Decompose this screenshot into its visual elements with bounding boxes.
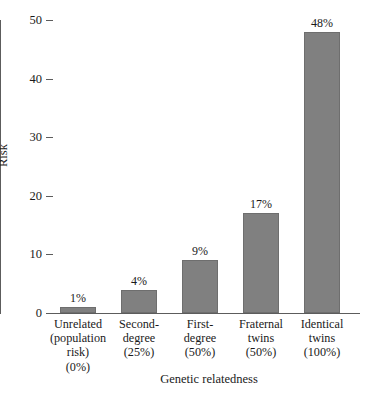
y-axis-tick bbox=[46, 79, 53, 80]
y-axis-tick-label: 50 bbox=[2, 14, 42, 27]
bar-value-label: 48% bbox=[292, 17, 352, 29]
y-axis-tick-label: 40 bbox=[2, 73, 42, 86]
y-axis-tick-label: 10 bbox=[2, 248, 42, 261]
y-axis-tick-label: 30 bbox=[2, 131, 42, 144]
x-axis-title: Genetic relatedness bbox=[0, 372, 373, 387]
y-axis-tick bbox=[46, 313, 53, 314]
y-axis-tick bbox=[46, 20, 53, 21]
bar-value-label: 9% bbox=[170, 245, 230, 257]
y-axis-tick bbox=[46, 137, 53, 138]
bar-value-label: 4% bbox=[109, 275, 169, 287]
bar-value-label: 17% bbox=[231, 198, 291, 210]
y-axis-tick bbox=[46, 254, 53, 255]
bar-chart-figure: Risk 01020304050 1%4%9%17%48% Unrelated … bbox=[0, 0, 373, 399]
x-axis-line bbox=[53, 313, 360, 314]
bar bbox=[182, 260, 218, 313]
bar-value-label: 1% bbox=[48, 292, 108, 304]
bar bbox=[243, 213, 279, 313]
y-axis-title: Risk bbox=[0, 144, 11, 167]
bar bbox=[60, 307, 96, 313]
x-axis-category-label: Identical twins (100%) bbox=[279, 317, 365, 360]
y-axis-tick-label: 20 bbox=[2, 190, 42, 203]
bar bbox=[304, 32, 340, 313]
y-axis-tick bbox=[46, 196, 53, 197]
bar bbox=[121, 290, 157, 313]
y-axis-line bbox=[0, 20, 1, 314]
